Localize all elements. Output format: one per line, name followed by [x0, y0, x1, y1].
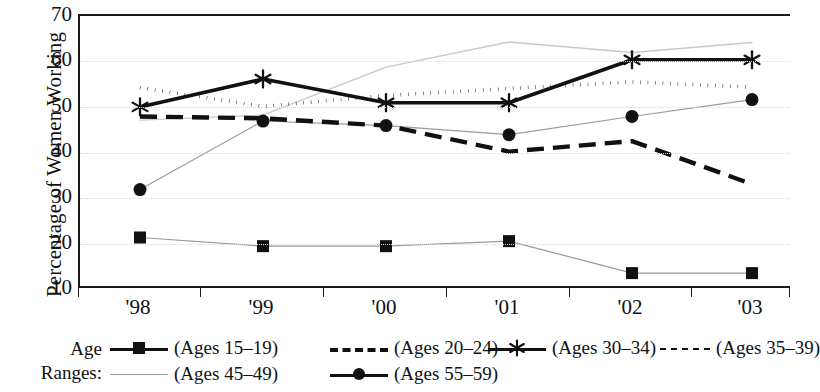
line-square-marker-icon: [110, 338, 168, 358]
line-short-dash-icon: [660, 338, 710, 358]
legend-head-ranges: Ranges:: [10, 362, 102, 384]
line-long-dash-icon: [330, 338, 388, 358]
x-tick-6: [789, 288, 790, 297]
y-tick-label-10: 10: [24, 277, 72, 298]
legend-label-ages-45-49: (Ages 45–49): [174, 363, 278, 385]
series-20-24: [140, 117, 752, 185]
chart-legend: Age Ranges: (Ages 15–19) (Ages 20–24): [0, 336, 803, 392]
legend-label-ages-35-39: (Ages 35–39): [716, 337, 820, 359]
y-tick-label-30: 30: [24, 186, 72, 207]
legend-item-ages-20-24[interactable]: (Ages 20–24): [330, 336, 498, 360]
x-tick-label-99: '99: [231, 295, 291, 319]
line-thin-grey-icon: [110, 364, 168, 384]
legend-label-ages-15-19: (Ages 15–19): [174, 337, 278, 359]
y-tick-label-40: 40: [24, 140, 72, 161]
gridline-20: [80, 244, 790, 245]
x-tick-label-03: '03: [720, 295, 780, 319]
line-circle-marker-icon: [330, 364, 388, 384]
legend-head-age: Age: [10, 338, 102, 360]
gridline-30: [80, 198, 790, 199]
x-tick-label-02: '02: [600, 295, 660, 319]
y-tick-label-70: 70: [24, 4, 72, 25]
x-tick-label-00: '00: [354, 295, 414, 319]
legend-label-ages-30-34: (Ages 30–34): [552, 337, 656, 359]
legend-item-ages-35-39[interactable]: (Ages 35–39): [660, 336, 820, 360]
legend-label-ages-55-59: (Ages 55–59): [394, 363, 498, 385]
line-star-marker-icon: [488, 338, 546, 358]
gridline-50: [80, 107, 790, 108]
x-tick-2: [323, 288, 324, 297]
series-15-19: [134, 231, 758, 279]
x-tick-label-98: '98: [108, 295, 168, 319]
legend-item-ages-55-59[interactable]: (Ages 55–59): [330, 362, 498, 386]
gridline-60: [80, 61, 790, 62]
y-tick-label-50: 50: [24, 95, 72, 116]
y-tick-label-20: 20: [24, 232, 72, 253]
x-tick-4: [569, 288, 570, 297]
x-tick-0: [78, 288, 79, 297]
legend-item-ages-45-49[interactable]: (Ages 45–49): [110, 362, 278, 386]
x-tick-3: [446, 288, 447, 297]
gridline-40: [80, 153, 790, 154]
plot-area: [78, 14, 790, 288]
series-45-49: [140, 42, 752, 120]
y-tick-label-60: 60: [24, 49, 72, 70]
legend-item-ages-15-19[interactable]: (Ages 15–19): [110, 336, 278, 360]
legend-item-ages-30-34[interactable]: (Ages 30–34): [488, 336, 656, 360]
x-tick-1: [200, 288, 201, 297]
legend-label-ages-20-24: (Ages 20–24): [394, 337, 498, 359]
series-55-59: [134, 93, 759, 196]
x-tick-5: [691, 288, 692, 297]
x-tick-label-01: '01: [477, 295, 537, 319]
